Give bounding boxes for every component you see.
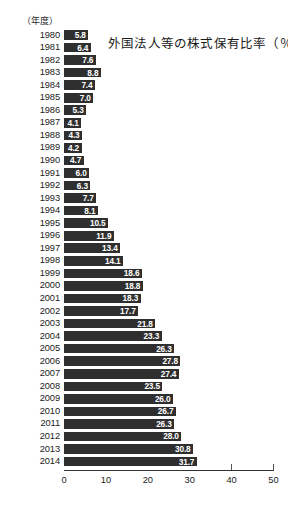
bar-row: 200423.3 bbox=[0, 330, 288, 343]
bar-wrapper: 6.3 bbox=[64, 181, 90, 191]
bar-row: 19827.6 bbox=[0, 54, 288, 67]
bar-row-year-label: 1992 bbox=[22, 180, 60, 191]
bar-row: 19847.4 bbox=[0, 79, 288, 92]
bar-row: 19937.7 bbox=[0, 192, 288, 205]
bar-row: 19894.2 bbox=[0, 142, 288, 155]
bar-row: 19865.3 bbox=[0, 104, 288, 117]
bar-value-label: 28.0 bbox=[163, 432, 179, 441]
bar: 23.3 bbox=[64, 331, 162, 341]
bar-value-label: 26.0 bbox=[155, 395, 171, 404]
bar-row-year-label: 1984 bbox=[22, 80, 60, 91]
bar-row: 19916.0 bbox=[0, 167, 288, 180]
bar: 27.8 bbox=[64, 356, 180, 366]
bar: 4.7 bbox=[64, 156, 84, 166]
bar: 7.4 bbox=[64, 80, 95, 90]
bar-wrapper: 30.8 bbox=[64, 444, 193, 454]
bar-row-year-label: 2002 bbox=[22, 306, 60, 317]
bar-value-label: 4.7 bbox=[70, 156, 81, 165]
bar: 26.3 bbox=[64, 344, 174, 354]
bar-value-label: 6.3 bbox=[77, 181, 88, 190]
bar: 4.1 bbox=[64, 118, 81, 128]
bar-row-year-label: 1995 bbox=[22, 218, 60, 229]
x-axis-tick bbox=[273, 464, 274, 470]
bar-row-year-label: 1987 bbox=[22, 117, 60, 128]
bar-wrapper: 6.4 bbox=[64, 43, 91, 53]
bar: 8.1 bbox=[64, 206, 98, 216]
bar-wrapper: 5.8 bbox=[64, 30, 88, 40]
bar-row: 19838.8 bbox=[0, 67, 288, 80]
bar-row-year-label: 2007 bbox=[22, 368, 60, 379]
bar-row-year-label: 1993 bbox=[22, 193, 60, 204]
bar-row: 200823.5 bbox=[0, 380, 288, 393]
bar: 27.4 bbox=[64, 369, 179, 379]
bar: 18.8 bbox=[64, 281, 143, 291]
bar: 26.7 bbox=[64, 407, 176, 417]
bar-wrapper: 26.7 bbox=[64, 407, 176, 417]
x-axis-tick-label: 40 bbox=[226, 475, 236, 485]
bar-row: 19874.1 bbox=[0, 117, 288, 130]
bar-value-label: 10.5 bbox=[90, 219, 106, 228]
bar-wrapper: 8.8 bbox=[64, 68, 101, 78]
bar-row-year-label: 1996 bbox=[22, 230, 60, 241]
bar-row-year-label: 2008 bbox=[22, 381, 60, 392]
bar-wrapper: 21.8 bbox=[64, 319, 155, 329]
chart-container: （年度） 外国法人等の株式保有比率（％） 19805.819816.419827… bbox=[0, 0, 288, 529]
bar-wrapper: 11.9 bbox=[64, 231, 114, 241]
bar-wrapper: 18.6 bbox=[64, 269, 142, 279]
bar-row: 19884.3 bbox=[0, 129, 288, 142]
bar-row-year-label: 1985 bbox=[22, 92, 60, 103]
bar-wrapper: 4.2 bbox=[64, 143, 82, 153]
bar: 8.8 bbox=[64, 68, 101, 78]
bar-wrapper: 18.8 bbox=[64, 281, 143, 291]
bar-value-label: 7.4 bbox=[81, 81, 92, 90]
bar-value-label: 6.4 bbox=[77, 43, 88, 52]
bar: 26.0 bbox=[64, 394, 173, 404]
bar-row-year-label: 1997 bbox=[22, 243, 60, 254]
bar: 10.5 bbox=[64, 218, 108, 228]
bar-wrapper: 23.3 bbox=[64, 331, 162, 341]
bar-row-year-label: 1989 bbox=[22, 142, 60, 153]
bar-value-label: 4.1 bbox=[68, 119, 79, 128]
bar-value-label: 5.8 bbox=[75, 31, 86, 40]
bar-wrapper: 23.5 bbox=[64, 382, 162, 392]
bar-row: 201330.8 bbox=[0, 443, 288, 456]
bar-value-label: 26.3 bbox=[156, 420, 172, 429]
bar-wrapper: 13.4 bbox=[64, 243, 120, 253]
bar-row: 19904.7 bbox=[0, 154, 288, 167]
bar: 7.7 bbox=[64, 193, 96, 203]
bar-row-year-label: 2004 bbox=[22, 331, 60, 342]
bar: 4.2 bbox=[64, 143, 82, 153]
bar-wrapper: 27.4 bbox=[64, 369, 179, 379]
bar-row-year-label: 2003 bbox=[22, 318, 60, 329]
bar-row: 201126.3 bbox=[0, 418, 288, 431]
bar: 14.1 bbox=[64, 256, 123, 266]
bar-value-label: 13.4 bbox=[102, 244, 118, 253]
bar-row-year-label: 1988 bbox=[22, 130, 60, 141]
bar-row-year-label: 2005 bbox=[22, 343, 60, 354]
bar-value-label: 17.7 bbox=[120, 307, 136, 316]
bar-value-label: 8.1 bbox=[84, 206, 95, 215]
bar: 6.3 bbox=[64, 181, 90, 191]
bar-wrapper: 8.1 bbox=[64, 206, 98, 216]
bar-value-label: 30.8 bbox=[175, 445, 191, 454]
bar-wrapper: 5.3 bbox=[64, 105, 86, 115]
bar-wrapper: 4.7 bbox=[64, 156, 84, 166]
bar-wrapper: 14.1 bbox=[64, 256, 123, 266]
bar-value-label: 6.0 bbox=[76, 169, 87, 178]
bar-row: 201431.7 bbox=[0, 456, 288, 469]
bar-row-year-label: 1986 bbox=[22, 105, 60, 116]
bar-row-year-label: 2010 bbox=[22, 406, 60, 417]
bar-value-label: 5.3 bbox=[73, 106, 84, 115]
bar-row-year-label: 2009 bbox=[22, 393, 60, 404]
bar-value-label: 27.4 bbox=[161, 370, 177, 379]
bar-row-year-label: 1980 bbox=[22, 30, 60, 41]
bar-rows: 19805.819816.419827.619838.819847.419857… bbox=[0, 29, 288, 468]
bar: 5.8 bbox=[64, 30, 88, 40]
bar-value-label: 7.7 bbox=[83, 194, 94, 203]
bar-row-year-label: 2013 bbox=[22, 444, 60, 455]
bar-row-year-label: 1983 bbox=[22, 67, 60, 78]
bar-row: 201026.7 bbox=[0, 405, 288, 418]
bar-row-year-label: 1999 bbox=[22, 268, 60, 279]
bar-value-label: 18.3 bbox=[123, 294, 139, 303]
bar-row-year-label: 1991 bbox=[22, 168, 60, 179]
